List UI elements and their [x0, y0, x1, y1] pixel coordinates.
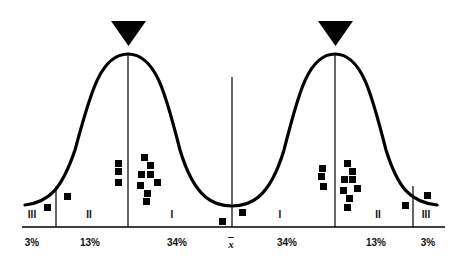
bell-curve-diagram	[0, 0, 465, 256]
zone-label-right-ii: II	[375, 209, 381, 220]
zone-label-left-i: I	[171, 209, 174, 220]
left-peak-triangle-icon	[111, 21, 146, 46]
percent-label-left-3: 3%	[25, 237, 39, 248]
percent-label-right-3: 3%	[421, 237, 435, 248]
percent-label-right-13: 13%	[366, 237, 386, 248]
zone-label-right-iii: III	[422, 209, 430, 220]
zone-label-left-ii: II	[86, 209, 92, 220]
right-peak-triangle-icon	[318, 21, 353, 46]
percent-label-right-34: 34%	[277, 237, 297, 248]
zone-label-left-iii: III	[28, 209, 36, 220]
zone-label-right-i: I	[279, 209, 282, 220]
mean-symbol-label: x	[228, 238, 234, 250]
percent-label-left-34: 34%	[167, 237, 187, 248]
percent-label-left-13: 13%	[80, 237, 100, 248]
bell-curve-line	[25, 54, 437, 206]
